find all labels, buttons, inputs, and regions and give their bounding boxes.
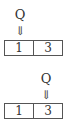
array-cell: 3 (33, 41, 62, 55)
array-box: 1 3 (4, 103, 63, 119)
array-box: 1 3 (4, 40, 63, 56)
pointer-label: Q (12, 8, 28, 21)
array-cell: 1 (5, 104, 33, 118)
pointer-label: Q (38, 72, 54, 85)
array-cell: 3 (33, 104, 62, 118)
array-cell: 1 (5, 41, 33, 55)
double-arrow-down-icon: ⇓ (38, 89, 54, 101)
double-arrow-down-icon: ⇓ (12, 25, 28, 37)
